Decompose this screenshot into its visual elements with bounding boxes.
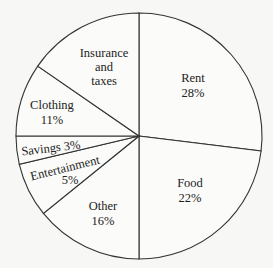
svg-text:Other: Other [89, 199, 118, 213]
svg-text:22%: 22% [179, 191, 202, 205]
svg-text:Clothing: Clothing [30, 98, 75, 112]
svg-text:Food: Food [177, 176, 203, 190]
svg-text:Rent: Rent [181, 71, 205, 85]
svg-text:11%: 11% [41, 113, 63, 127]
slice-label-food: Food 22% [177, 176, 203, 205]
slice-label-rent: Rent 28% [181, 71, 205, 100]
pie-slices [16, 13, 262, 259]
svg-text:and: and [95, 60, 114, 74]
svg-text:5%: 5% [62, 173, 79, 187]
svg-text:Insurance: Insurance [80, 46, 129, 60]
svg-text:16%: 16% [92, 214, 115, 228]
svg-text:28%: 28% [182, 86, 205, 100]
pie-chart: Rent 28% Food 22% Other 16% Entertainmen… [0, 0, 273, 268]
svg-text:taxes: taxes [91, 74, 117, 88]
slice-label-other: Other 16% [89, 199, 118, 228]
